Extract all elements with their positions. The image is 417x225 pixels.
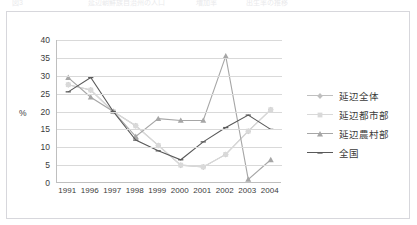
series-line — [68, 85, 271, 167]
legend-label: 延辺都市部 — [339, 108, 389, 122]
y-tick-label: 20 — [28, 108, 50, 116]
plot-area — [56, 40, 281, 183]
caption-fragment-a: 図3 — [12, 0, 23, 7]
gridline — [57, 94, 282, 95]
legend-marker-triangle-icon — [307, 128, 333, 140]
data-point-marker — [317, 93, 323, 99]
y-tick-label: 15 — [28, 125, 50, 133]
y-tick-label: 35 — [28, 54, 50, 62]
legend-label: 全国 — [339, 146, 359, 160]
data-point-marker — [317, 131, 323, 136]
data-point-marker — [223, 152, 228, 157]
figure-caption-strip: 図3 延辺朝鮮族自治州の人口 増加率 出生率の推移 — [0, 0, 417, 9]
legend-item[interactable]: 全国 — [307, 143, 407, 162]
legend-label: 延辺農村部 — [339, 127, 389, 141]
y-axis-title: % — [19, 108, 27, 118]
figure-card: % 0510152025303540 199119961997199819992… — [6, 11, 410, 219]
gridline — [57, 112, 282, 113]
legend-marker-square-icon — [307, 109, 333, 121]
y-tick-label: 0 — [28, 179, 50, 187]
data-point-marker — [318, 112, 323, 117]
gridline — [57, 129, 282, 130]
gridline — [57, 147, 282, 148]
series-line — [68, 56, 271, 179]
caption-fragment-d: 出生率の推移 — [246, 0, 288, 7]
data-point-marker — [133, 123, 138, 128]
caption-fragment-b: 延辺朝鮮族自治州の人口 — [88, 0, 165, 7]
y-tick-label: 25 — [28, 90, 50, 98]
line-chart: % 0510152025303540 199119961997199819992… — [7, 12, 411, 220]
gridline — [57, 76, 282, 77]
x-tick-label: 2004 — [255, 186, 285, 195]
legend-label: 延辺全体 — [339, 89, 379, 103]
y-tick-label: 5 — [28, 161, 50, 169]
gridline — [57, 58, 282, 59]
data-point-marker — [88, 88, 93, 93]
y-tick-label: 30 — [28, 72, 50, 80]
chart-legend: 延辺全体延辺都市部延辺農村部全国 — [307, 86, 407, 162]
legend-marker-cross-icon — [307, 147, 333, 159]
gridline — [57, 165, 282, 166]
legend-item[interactable]: 延辺農村部 — [307, 124, 407, 143]
caption-fragment-c: 増加率 — [196, 0, 217, 7]
screenshot-root: 図3 延辺朝鮮族自治州の人口 増加率 出生率の推移 % 051015202530… — [0, 0, 417, 225]
legend-item[interactable]: 延辺都市部 — [307, 105, 407, 124]
y-tick-label: 10 — [28, 143, 50, 151]
data-point-marker — [66, 82, 71, 87]
y-tick-label: 40 — [28, 36, 50, 44]
gridline — [57, 40, 282, 41]
legend-marker-diamond-icon — [307, 90, 333, 102]
legend-item[interactable]: 延辺全体 — [307, 86, 407, 105]
data-point-marker — [268, 157, 274, 162]
